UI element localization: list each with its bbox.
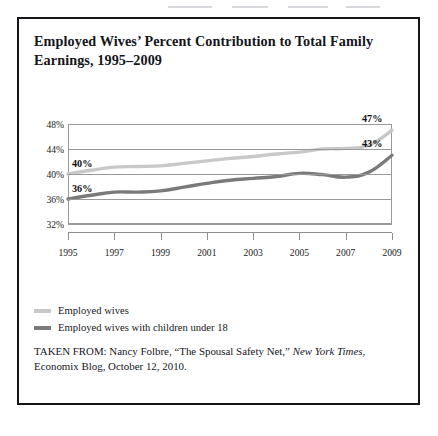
source-prefix: TAKEN FROM: Nancy Folbre, “The Spousal S… <box>34 345 293 357</box>
data-point-label: 43% <box>362 138 382 149</box>
data-point-label: 40% <box>72 158 92 169</box>
gridline <box>68 174 392 175</box>
source-note: TAKEN FROM: Nancy Folbre, “The Spousal S… <box>34 344 406 375</box>
gridline <box>68 199 392 200</box>
series-line <box>68 155 392 199</box>
legend-item-label: Employed wives with children under 18 <box>58 322 228 333</box>
legend-item-label: Employed wives <box>58 305 129 316</box>
legend-swatch-employed-wives <box>34 309 51 313</box>
legend-swatch-employed-wives-children <box>34 326 51 330</box>
data-point-label: 47% <box>362 113 382 124</box>
page-title: Employed Wives’ Percent Contribution to … <box>34 32 396 69</box>
scan-artifact <box>232 6 268 8</box>
gridline <box>68 224 392 225</box>
figure-box: Employed Wives’ Percent Contribution to … <box>17 17 420 405</box>
line-chart: 32%36%40%44%48% 199519971999200120032005… <box>19 81 418 296</box>
scan-artifact <box>288 6 328 8</box>
source-publication: New York Times <box>293 345 363 357</box>
legend-item: Employed wives with children under 18 <box>34 320 404 335</box>
gridline <box>68 149 392 150</box>
legend-item: Employed wives <box>34 303 404 318</box>
scan-artifact <box>346 6 380 8</box>
data-point-label: 36% <box>72 183 92 194</box>
series-line <box>68 130 392 174</box>
scan-artifact <box>168 6 212 8</box>
legend: Employed wivesEmployed wives with childr… <box>34 303 404 337</box>
